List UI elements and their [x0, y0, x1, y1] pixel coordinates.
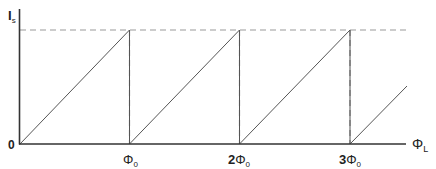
sawtooth-curve [20, 30, 407, 144]
origin-label: 0 [8, 138, 15, 152]
y-axis-label: Is [8, 8, 16, 25]
tick-2phi0-label: 2Φ0 [228, 152, 251, 169]
x-axis-label: ΦL [412, 136, 428, 154]
tick-3phi0-label: 3Φ0 [339, 152, 362, 169]
tick-phi0-label: Φ0 [123, 152, 138, 169]
sawtooth-diagram: Is 0 Φ0 2Φ0 3Φ0 ΦL [0, 0, 436, 169]
